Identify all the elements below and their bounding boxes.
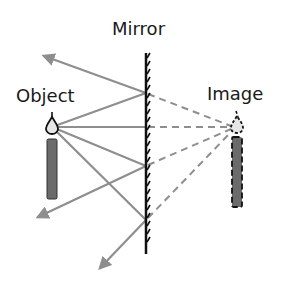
incident-rays [52,93,146,220]
reflected-ray-4 [100,220,146,268]
virtual-ray-1 [148,94,231,126]
plane-mirror-diagram: Mirror Object Image [0,0,284,292]
flame-icon [46,117,58,134]
reflected-ray-1 [44,56,146,93]
ray-diagram [0,0,284,292]
virtual-ray-4 [148,131,232,218]
virtual-rays [148,94,232,218]
mirror [146,53,150,254]
image-candle-body [232,137,242,207]
object-candle [46,112,58,199]
virtual-ray-3 [148,129,231,165]
mirror-hatching [147,53,150,242]
incident-ray-1 [52,93,146,127]
candle-body [47,139,57,199]
incident-ray-3 [52,127,146,166]
image-flame-icon [231,116,243,133]
image-candle [231,111,243,207]
